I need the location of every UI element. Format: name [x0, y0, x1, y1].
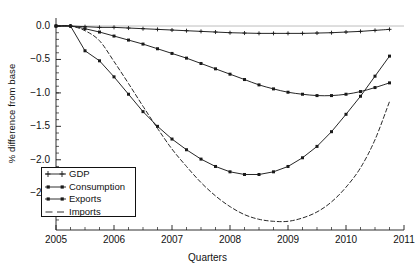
- x-tick-label: 2010: [324, 234, 368, 245]
- legend-item-exports: Exports: [42, 193, 135, 206]
- x-tick-label: 2008: [208, 234, 252, 245]
- legend-item-consumption: Consumption: [42, 181, 135, 194]
- x-tick-label: 2009: [266, 234, 310, 245]
- legend-marker-imports: [45, 206, 66, 218]
- x-tick-label: 2011: [382, 234, 415, 245]
- legend-label-exports: Exports: [69, 193, 101, 205]
- y-tick-label: 0.0: [16, 20, 50, 31]
- y-tick-label: −2.0: [16, 154, 50, 165]
- x-tick-label: 2006: [92, 234, 136, 245]
- y-tick-label: −1.0: [16, 87, 50, 98]
- legend-marker-gdp: [45, 168, 66, 180]
- x-tick-label: 2007: [150, 234, 194, 245]
- chart-legend: GDP Consumption Exports Imports: [41, 167, 136, 217]
- x-axis-label: Quarters: [0, 252, 415, 263]
- legend-label-consumption: Consumption: [69, 181, 125, 193]
- legend-label-imports: Imports: [69, 206, 101, 218]
- chart-container: % difference from base Quarters 0.0−0.5−…: [0, 0, 415, 275]
- y-tick-label: −0.5: [16, 53, 50, 64]
- y-tick-label: −1.5: [16, 120, 50, 131]
- legend-item-gdp: GDP: [42, 168, 135, 181]
- y-axis-label: % difference from base: [6, 39, 17, 189]
- legend-item-imports: Imports: [42, 206, 135, 219]
- series-consumption: [55, 25, 392, 98]
- legend-label-gdp: GDP: [69, 168, 90, 180]
- x-tick-label: 2005: [34, 234, 78, 245]
- legend-marker-consumption: [45, 181, 66, 193]
- legend-marker-exports: [45, 193, 66, 205]
